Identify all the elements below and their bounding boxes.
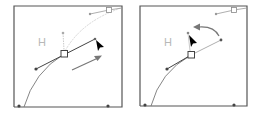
drag-arrow-head-icon xyxy=(94,56,102,62)
top-anchor-square xyxy=(107,8,112,13)
handle-point-right xyxy=(220,39,223,42)
panel-before: H xyxy=(14,6,122,108)
handle-label: H xyxy=(38,36,46,48)
handle-point-left xyxy=(34,67,37,70)
rotate-arrow-arc xyxy=(199,27,219,36)
anchor-square xyxy=(188,52,195,59)
top-handle-ext xyxy=(237,8,247,10)
top-handle-point xyxy=(215,13,217,15)
dim-handle-point xyxy=(62,32,65,35)
top-anchor-square xyxy=(232,8,237,13)
dim-curve xyxy=(64,8,121,53)
cursor-arrow-icon xyxy=(189,35,197,47)
corner-point-right xyxy=(106,104,109,107)
handle-point-left xyxy=(165,67,168,70)
panel-after: H xyxy=(140,6,247,107)
main-curve xyxy=(151,55,191,106)
handle-label: H xyxy=(164,36,172,48)
main-curve xyxy=(24,54,64,107)
rotate-arrow-head-icon xyxy=(193,24,200,31)
handle-point-right xyxy=(94,38,97,41)
dim-handle-point xyxy=(187,32,190,35)
cursor-arrow-icon xyxy=(96,40,104,51)
anchor-square xyxy=(61,51,68,58)
dim-handle-line xyxy=(63,33,64,50)
corner-point-left xyxy=(17,104,20,107)
corner-point-right xyxy=(232,103,235,106)
active-handle-line-left xyxy=(167,55,191,69)
corner-point-left xyxy=(143,103,146,106)
figure-canvas: H H xyxy=(0,0,261,114)
drag-arrow-shaft xyxy=(72,58,98,70)
top-handle-point xyxy=(89,13,91,15)
